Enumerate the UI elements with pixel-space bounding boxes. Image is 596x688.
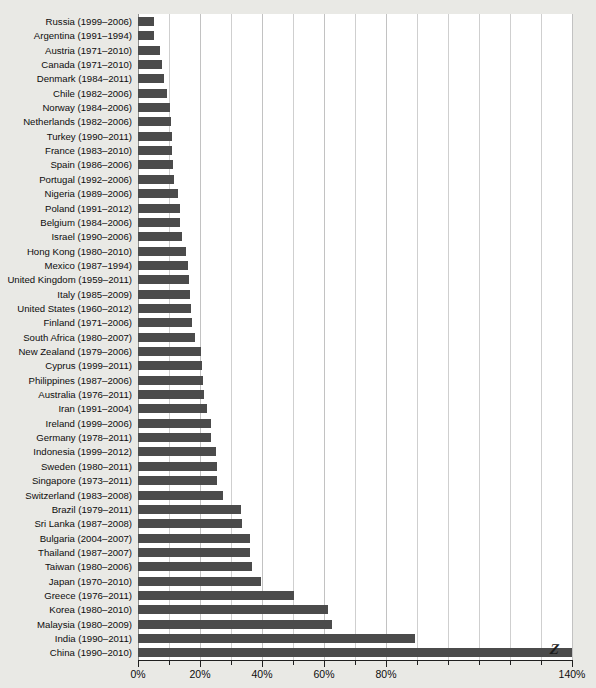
bar[interactable] — [138, 505, 241, 514]
bar-row[interactable]: Russia (1999–2006) — [138, 14, 572, 28]
bar[interactable] — [138, 318, 192, 327]
bar[interactable] — [138, 175, 174, 184]
bar-row[interactable]: Israel (1990–2006) — [138, 229, 572, 243]
bar[interactable] — [138, 404, 207, 413]
bar[interactable] — [138, 160, 173, 169]
bar-row[interactable]: Indonesia (1999–2012) — [138, 444, 572, 458]
x-tick-30pct — [231, 660, 232, 665]
bar-row[interactable]: Mexico (1987–1994) — [138, 258, 572, 272]
bar[interactable] — [138, 31, 154, 40]
bar[interactable] — [138, 591, 294, 600]
bar[interactable] — [138, 261, 188, 270]
bar[interactable] — [138, 347, 201, 356]
bar[interactable] — [138, 46, 160, 55]
bar-row[interactable]: Taiwan (1980–2006) — [138, 559, 572, 573]
bar[interactable] — [138, 548, 250, 557]
bar[interactable] — [138, 74, 164, 83]
bar-row[interactable]: Switzerland (1983–2008) — [138, 488, 572, 502]
bar[interactable] — [138, 534, 250, 543]
bar-row[interactable]: New Zealand (1979–2006) — [138, 344, 572, 358]
bar-category-label: New Zealand (1979–2006) — [18, 344, 132, 359]
bar[interactable] — [138, 17, 154, 26]
bar[interactable] — [138, 103, 170, 112]
bar-row[interactable]: United States (1960–2012) — [138, 301, 572, 315]
bar[interactable] — [138, 290, 190, 299]
bar[interactable] — [138, 620, 332, 629]
bar-row[interactable]: Belgium (1984–2006) — [138, 215, 572, 229]
bar-row[interactable]: Turkey (1990–2011) — [138, 129, 572, 143]
bar-row[interactable]: Sri Lanka (1987–2008) — [138, 516, 572, 530]
bar[interactable] — [138, 117, 171, 126]
bar-row[interactable]: Japan (1970–2010) — [138, 574, 572, 588]
bar[interactable] — [138, 462, 217, 471]
bar[interactable] — [138, 361, 202, 370]
bar[interactable] — [138, 648, 572, 657]
bar-row[interactable]: Australia (1976–2011) — [138, 387, 572, 401]
bar[interactable] — [138, 605, 328, 614]
bar-row[interactable]: Thailand (1987–2007) — [138, 545, 572, 559]
bar[interactable] — [138, 419, 211, 428]
bar-category-label: Brazil (1979–2011) — [52, 502, 132, 517]
bar[interactable] — [138, 146, 172, 155]
bar-row[interactable]: Portugal (1992–2006) — [138, 172, 572, 186]
bar[interactable] — [138, 232, 182, 241]
bar-row[interactable]: Korea (1980–2010) — [138, 602, 572, 616]
bar-row[interactable]: Philippines (1987–2006) — [138, 373, 572, 387]
bar[interactable] — [138, 189, 178, 198]
bar[interactable] — [138, 447, 216, 456]
bar-row[interactable]: United Kingdom (1959–2011) — [138, 272, 572, 286]
bar-row[interactable]: France (1983–2010) — [138, 143, 572, 157]
x-tick-90pct — [417, 660, 418, 665]
bar-category-label: Italy (1985–2009) — [57, 287, 132, 302]
bar-row[interactable]: Ireland (1999–2006) — [138, 416, 572, 430]
bar[interactable] — [138, 491, 223, 500]
bar[interactable] — [138, 333, 195, 342]
bar[interactable] — [138, 476, 217, 485]
bar-row[interactable]: Canada (1971–2010) — [138, 57, 572, 71]
bar[interactable] — [138, 247, 186, 256]
bar-row[interactable]: Malaysia (1980–2009) — [138, 617, 572, 631]
bar-row[interactable]: Italy (1985–2009) — [138, 287, 572, 301]
bar[interactable] — [138, 433, 211, 442]
bar-row[interactable]: India (1990–2011) — [138, 631, 572, 645]
bar-row[interactable]: Sweden (1980–2011) — [138, 459, 572, 473]
bar[interactable] — [138, 634, 415, 643]
bar[interactable] — [138, 390, 204, 399]
bar-row[interactable]: Netherlands (1982–2006) — [138, 114, 572, 128]
x-tick-110pct — [479, 660, 480, 665]
bar-row[interactable]: Iran (1991–2004) — [138, 401, 572, 415]
bar-category-label: Singapore (1973–2011) — [32, 473, 132, 488]
bar-row[interactable]: Poland (1991–2012) — [138, 201, 572, 215]
bar-row[interactable]: Denmark (1984–2011) — [138, 71, 572, 85]
bar-row[interactable]: Greece (1976–2011) — [138, 588, 572, 602]
bar-row[interactable]: Cyprus (1999–2011) — [138, 358, 572, 372]
bar-row[interactable]: China (1990–2010)Z — [138, 645, 572, 659]
bar-row[interactable]: Bulgaria (2004–2007) — [138, 531, 572, 545]
bar[interactable] — [138, 376, 203, 385]
bar-row[interactable]: Singapore (1973–2011) — [138, 473, 572, 487]
bar[interactable] — [138, 519, 242, 528]
bar-row[interactable]: Norway (1984–2006) — [138, 100, 572, 114]
bar-category-label: Finland (1971–2006) — [43, 315, 132, 330]
bar-row[interactable]: Hong Kong (1980–2010) — [138, 244, 572, 258]
bar-row[interactable]: Germany (1978–2011) — [138, 430, 572, 444]
bar-row[interactable]: Finland (1971–2006) — [138, 315, 572, 329]
bar-row[interactable]: South Africa (1980–2007) — [138, 330, 572, 344]
x-tick-120pct — [510, 660, 511, 665]
bar[interactable] — [138, 132, 172, 141]
bar[interactable] — [138, 218, 180, 227]
bar[interactable] — [138, 562, 252, 571]
bar-category-label: Indonesia (1999–2012) — [33, 444, 132, 459]
bar-row[interactable]: Spain (1986–2006) — [138, 157, 572, 171]
bar[interactable] — [138, 60, 162, 69]
bar-row[interactable]: Argentina (1991–1994) — [138, 28, 572, 42]
bar-row[interactable]: Chile (1982–2006) — [138, 86, 572, 100]
bar-row[interactable]: Nigeria (1989–2006) — [138, 186, 572, 200]
bar-row[interactable]: Austria (1971–2010) — [138, 43, 572, 57]
bar[interactable] — [138, 204, 180, 213]
bar[interactable] — [138, 89, 167, 98]
bar[interactable] — [138, 577, 261, 586]
bar[interactable] — [138, 275, 189, 284]
bar-row[interactable]: Brazil (1979–2011) — [138, 502, 572, 516]
bar[interactable] — [138, 304, 191, 313]
